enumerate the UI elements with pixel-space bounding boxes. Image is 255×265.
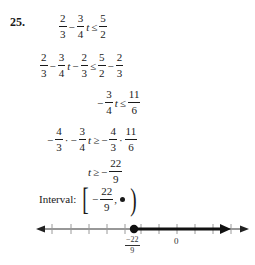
zero-label: 0 — [174, 236, 179, 246]
left-arrow-icon — [36, 226, 45, 233]
right-arrow-icon — [240, 226, 249, 233]
number-line — [0, 0, 255, 265]
closed-endpoint-dot — [130, 225, 138, 233]
endpoint-label: −22 9 — [125, 236, 140, 255]
solution-arrow-icon — [220, 224, 231, 234]
